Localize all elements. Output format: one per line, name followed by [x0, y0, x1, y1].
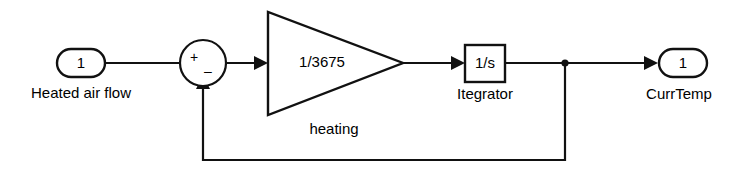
output-port-value: 1: [679, 54, 687, 71]
input-port-value: 1: [77, 54, 85, 71]
signal-line-feedback-loop[interactable]: [196, 63, 565, 160]
integrator-caption: Itegrator: [457, 85, 513, 102]
arrow-head-icon: [644, 56, 658, 70]
block-input-port[interactable]: 1: [57, 49, 105, 77]
arrow-head-icon: [451, 56, 465, 70]
block-output-port[interactable]: 1: [659, 49, 707, 77]
integrator-value: 1/s: [475, 54, 495, 71]
gain-value: 1/3675: [299, 53, 345, 70]
input-port-caption: Heated air flow: [31, 84, 131, 101]
signal-line-gain-to-integrator[interactable]: [403, 56, 465, 70]
arrow-head-icon: [254, 56, 268, 70]
sum-plus-sign: +: [190, 49, 198, 65]
block-sum-junction[interactable]: + –: [180, 40, 226, 86]
signal-line-integrator-to-output[interactable]: [505, 56, 658, 70]
block-gain[interactable]: 1/3675: [268, 12, 403, 115]
block-diagram-svg: 1 Heated air flow + – 1/3675 heating 1/s…: [0, 0, 733, 176]
sum-minus-sign: –: [204, 63, 212, 79]
gain-caption: heating: [309, 120, 358, 137]
signal-junction-dot: [561, 59, 568, 66]
signal-line-sum-to-gain[interactable]: [226, 56, 268, 70]
output-port-caption: CurrTemp: [646, 85, 712, 102]
block-diagram-canvas: 1 Heated air flow + – 1/3675 heating 1/s…: [0, 0, 733, 176]
sum-junction-shape: [180, 40, 226, 86]
block-integrator[interactable]: 1/s: [465, 45, 505, 82]
